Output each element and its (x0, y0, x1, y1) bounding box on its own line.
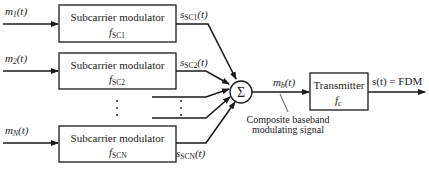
svg-text:m2(t): m2(t) (5, 52, 27, 66)
subcarrier-modulator-2: Subcarrier modulator fSC2 (59, 53, 176, 89)
svg-text:Subcarrier modulator: Subcarrier modulator (71, 11, 165, 23)
svg-text:Subcarrier modulator: Subcarrier modulator (71, 132, 165, 144)
input-mN: mN(t) (3, 124, 58, 143)
composite-annotation-2: modulating signal (252, 124, 324, 135)
subcarrier-modulator-N: Subcarrier modulator fSCN (59, 126, 176, 162)
fdm-block-diagram: m1(t) m2(t) mN(t) Subcarrier modulator f… (0, 0, 429, 170)
ellipsis-dots (116, 100, 182, 116)
svg-text:mN(t): mN(t) (5, 124, 29, 138)
svg-text:s(t) = FDM: s(t) = FDM (372, 75, 422, 88)
svg-text:m1(t): m1(t) (5, 5, 27, 19)
svg-text:mb(t): mb(t) (273, 76, 295, 90)
input-m2: m2(t) (3, 52, 58, 71)
sigma-icon: Σ (237, 85, 245, 100)
transmitter-block: Transmitter fc (310, 73, 368, 110)
input-m1: m1(t) (3, 5, 58, 24)
output-label-scN: sSCN(t) (176, 147, 206, 161)
summer-node: Σ (230, 81, 252, 103)
subcarrier-modulator-1: Subcarrier modulator fSC1 (59, 5, 176, 42)
svg-text:Transmitter: Transmitter (314, 79, 365, 91)
output-label-sc2: sSC2(t) (180, 56, 208, 70)
svg-text:Subcarrier modulator: Subcarrier modulator (71, 59, 165, 71)
output-label-sc1: sSC1(t) (180, 8, 208, 22)
fdm-output: s(t) = FDM (368, 75, 425, 92)
